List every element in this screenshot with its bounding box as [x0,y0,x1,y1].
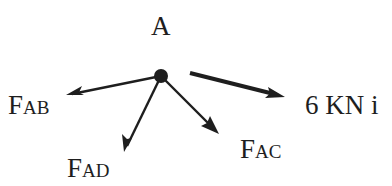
force-label-fab-sub: AB [23,97,49,118]
force-label-fad: FAD [67,155,109,182]
force-label-fad-sub: AD [82,160,109,181]
force-label-fab-main: F [8,90,23,120]
force-label-fac-sub: AC [255,141,281,162]
node-a [154,69,168,83]
force-label-load: 6 KN i [305,92,379,119]
force-arrow-fad [127,76,161,146]
node-label-a: A [151,13,171,40]
force-arrow-fab [72,76,161,94]
force-label-fac-main: F [240,134,255,164]
arrowhead-fab-icon [66,86,84,95]
force-label-fab: FAB [8,92,49,119]
force-arrow-load [190,73,276,95]
force-label-fad-main: F [67,153,82,183]
force-label-fac: FAC [240,136,281,163]
force-arrow-fac [161,76,214,129]
